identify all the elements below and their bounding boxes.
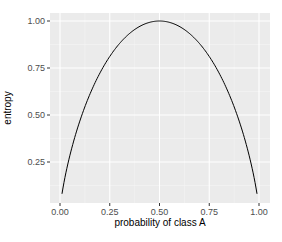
y-tick-label: 1.00 [27, 16, 45, 26]
x-tick-label: 0.25 [101, 207, 119, 217]
y-axis-title: entropy [2, 91, 13, 124]
x-tick-label: 0.50 [151, 207, 169, 217]
y-tick-label: 0.50 [27, 110, 45, 120]
y-axis-ticks: 0.250.500.751.00 [27, 16, 50, 167]
entropy-chart: 0.000.250.500.751.00 0.250.500.751.00 pr… [0, 0, 282, 242]
x-tick-label: 0.00 [51, 207, 69, 217]
x-axis-title: probability of class A [114, 217, 205, 228]
x-tick-label: 1.00 [250, 207, 268, 217]
x-tick-label: 0.75 [200, 207, 218, 217]
y-tick-label: 0.75 [27, 63, 45, 73]
x-axis-ticks: 0.000.250.500.751.00 [51, 203, 268, 217]
y-tick-label: 0.25 [27, 157, 45, 167]
